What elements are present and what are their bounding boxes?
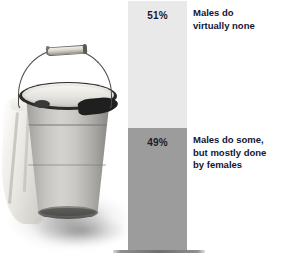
annotation-bottom-line-1: Males do some, xyxy=(193,134,285,147)
stacked-bar-chart: 51% 49% xyxy=(128,1,187,250)
annotation-top-line-1: Males do xyxy=(193,7,285,20)
annotation-bottom-line-2: but mostly done xyxy=(193,147,285,160)
annotation-bottom-line-3: by females xyxy=(193,159,285,172)
bar-segment-bottom-percent: 49% xyxy=(128,137,187,148)
bar-segment-top: 51% xyxy=(128,1,187,128)
annotation-bottom: Males do some, but mostly done by female… xyxy=(193,134,285,172)
bar-segment-top-percent: 51% xyxy=(128,10,187,21)
bucket-seam-upper xyxy=(25,124,110,126)
annotation-top: Males do virtually none xyxy=(193,7,285,32)
bucket-contact-shadow xyxy=(34,214,128,248)
bucket-base-shade xyxy=(40,208,96,216)
infographic-figure: 51% 49% Males do virtually none Males do… xyxy=(0,0,285,263)
annotation-top-line-2: virtually none xyxy=(193,20,285,33)
bar-segment-bottom: 49% xyxy=(128,128,187,250)
chart-baseline xyxy=(113,250,205,253)
bucket-seam-lower xyxy=(28,164,106,166)
handle-grip-cap-right xyxy=(83,44,88,54)
bucket-handle xyxy=(18,48,112,110)
bucket-photo xyxy=(0,38,128,263)
